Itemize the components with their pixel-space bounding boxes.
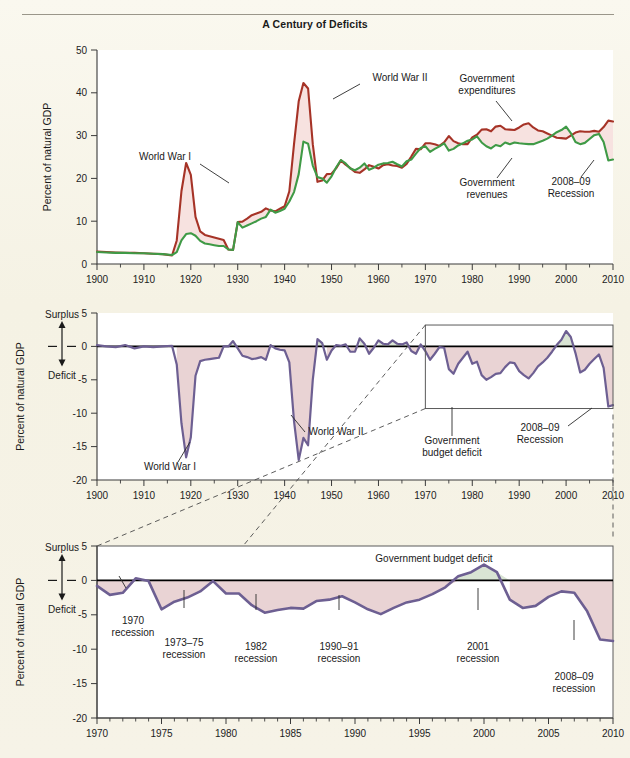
annot-bot-recession-1982-2: recession — [235, 653, 278, 664]
panel-bot-xtick: 1990 — [344, 728, 367, 739]
panel-bot-xtick: 2005 — [537, 728, 560, 739]
panel-bot-ytick: -5 — [78, 609, 87, 620]
panel-bot-ytick: -20 — [73, 713, 88, 724]
panel-bot-surplus-label: Surplus — [45, 542, 79, 553]
annot-bot-recession-1973-75-2: recession — [163, 649, 206, 660]
panel-bot-xtick: 1975 — [150, 728, 173, 739]
panel-bot-ytick: -15 — [73, 678, 88, 689]
panel-bot-xtick: 1970 — [86, 728, 109, 739]
panel-bot-ytick: 0 — [81, 575, 87, 586]
panel-bot-series-label: Government budget deficit — [375, 553, 493, 564]
panel-bot-ytick: -10 — [73, 644, 88, 655]
annot-bot-recession-1973-75-1: 1973–75 — [165, 637, 204, 648]
annot-bot-recession-1982-1: 1982 — [245, 641, 268, 652]
annot-bot-recession-1990-91-2: recession — [318, 653, 361, 664]
panel-bot-deficit-label: Deficit — [48, 604, 76, 615]
figure-page: A Century of Deficits 010203040501900191… — [0, 0, 630, 758]
annot-bot-recession-1970-2: recession — [112, 627, 155, 638]
panel-bottom-chart: -20-15-10-505197019751980198519901995200… — [0, 528, 630, 758]
panel-bot-xtick: 1985 — [279, 728, 302, 739]
annot-bot-recession-1970-1: 1970 — [122, 615, 145, 626]
annot-bot-recession-1990-91-1: 1990–91 — [320, 641, 359, 652]
panel-bot-xtick: 1980 — [215, 728, 238, 739]
panel-bot-xtick: 1995 — [408, 728, 431, 739]
panel-bot-xtick: 2010 — [602, 728, 625, 739]
panel-bot-xtick: 2000 — [473, 728, 496, 739]
panel-bot-ylabel: Percent of natural GDP — [14, 578, 26, 687]
annot-bot-recession-2001-2: recession — [457, 653, 500, 664]
annot-bot-recession-2008-09-1: 2008–09 — [555, 671, 594, 682]
annot-bot-recession-2001-1: 2001 — [467, 641, 490, 652]
panel-bot-ytick: 5 — [81, 541, 87, 552]
annot-bot-recession-2008-09-2: recession — [553, 683, 596, 694]
